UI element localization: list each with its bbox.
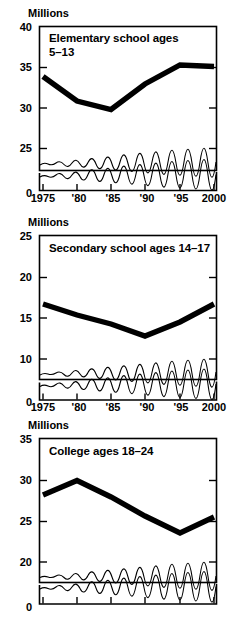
chart-3-ytick-30: 30 <box>20 474 32 486</box>
chart-2-xtick-80: '80 <box>72 401 87 412</box>
chart-3-ytick-35: 35 <box>20 433 32 445</box>
chart-1-ytick-40: 40 <box>20 21 32 33</box>
chart-2-data-line <box>43 304 214 336</box>
chart-1-xtick-2000: 2000 <box>202 192 226 204</box>
chart-3-ytick-0: 0 <box>26 601 32 613</box>
chart-college-ages: Millions 35 30 25 20 0 College ages 18–2… <box>0 412 244 624</box>
chart-3-ytick-20: 20 <box>20 556 32 568</box>
chart-2-ytick-15: 15 <box>20 312 32 324</box>
chart-3-svg: Millions 35 30 25 20 0 College ages 18–2… <box>0 412 244 624</box>
chart-elementary-school-ages: Millions 40 35 30 25 0 Elementary school… <box>0 0 244 205</box>
chart-1-xtick-1975: 1975 <box>31 192 55 204</box>
chart-1-ytick-30: 30 <box>20 102 32 114</box>
chart-2-xtick-85: '85 <box>106 401 121 412</box>
chart-3-x-tickmarks <box>43 597 214 604</box>
chart-2-svg: Millions 25 20 15 10 0 Secondary school … <box>0 205 244 412</box>
chart-1-xtick-95: '95 <box>174 192 189 204</box>
chart-1-y-tickmarks <box>40 68 216 149</box>
chart-2-plot-frame <box>40 236 217 380</box>
chart-1-x-tickmarks <box>43 184 214 190</box>
chart-3-y-tickmarks <box>40 481 216 563</box>
chart-2-ytick-10: 10 <box>20 353 32 365</box>
chart-1-svg: Millions 40 35 30 25 0 Elementary school… <box>0 0 244 205</box>
chart-2-y-unit-label: Millions <box>28 216 69 228</box>
chart-3-ytick-25: 25 <box>20 515 32 527</box>
chart-3-plot-frame <box>40 439 217 583</box>
chart-1-xtick-85: '85 <box>106 192 121 204</box>
chart-1-subtitle: 5–13 <box>49 46 74 58</box>
chart-2-ytick-25: 25 <box>20 230 32 242</box>
chart-1-title: Elementary school ages <box>49 32 178 44</box>
chart-3-data-line <box>43 481 214 534</box>
chart-secondary-school-ages: Millions 25 20 15 10 0 Secondary school … <box>0 205 244 412</box>
chart-2-xtick-2000: 2000 <box>202 401 226 412</box>
chart-1-xtick-80: '80 <box>72 192 87 204</box>
chart-1-y-unit-label: Millions <box>28 7 69 19</box>
chart-2-xtick-1975: 1975 <box>31 401 55 412</box>
chart-3-y-unit-label: Millions <box>28 419 69 431</box>
chart-2-ytick-20: 20 <box>20 271 32 283</box>
chart-2-xtick-90: '90 <box>140 401 155 412</box>
chart-1-data-line <box>43 65 214 110</box>
chart-2-xtick-95: '95 <box>174 401 189 412</box>
chart-2-title: Secondary school ages 14–17 <box>49 242 210 254</box>
chart-1-ytick-35: 35 <box>20 61 32 73</box>
chart-1-ytick-25: 25 <box>20 142 32 154</box>
chart-1-xtick-90: '90 <box>140 192 155 204</box>
chart-3-title: College ages 18–24 <box>49 445 154 457</box>
chart-2-x-tickmarks <box>43 394 214 400</box>
